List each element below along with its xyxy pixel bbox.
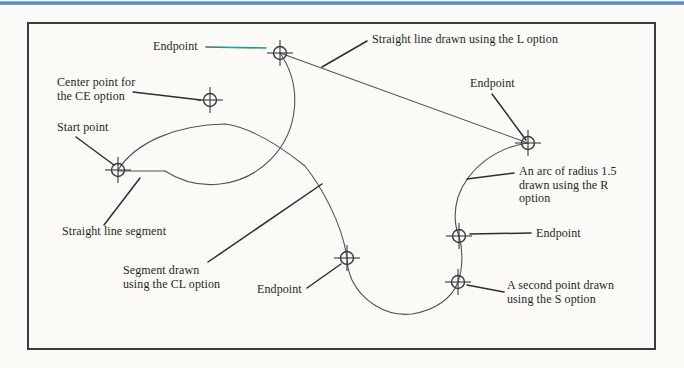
marker-ce-center-point <box>197 87 223 113</box>
leader-r-option <box>467 173 514 179</box>
marker-endpoint-right <box>515 130 541 156</box>
leader-cl-option <box>208 184 322 262</box>
label-ce-center: Center point forthe CE option <box>57 76 135 103</box>
label-endpoint-upper-right-line: Endpoint <box>470 77 515 91</box>
s-option-arc-lower-path <box>347 258 458 314</box>
label-s-option-line: using the S option <box>507 293 614 307</box>
label-cl-option-line: using the CL option <box>123 278 220 292</box>
leader-ce-center <box>133 92 201 100</box>
label-r-option-line: option <box>519 192 617 206</box>
leader-endpoint-top <box>206 47 266 48</box>
leader-endpoint-bottom <box>307 264 341 288</box>
leader-endpoint-upper-right <box>492 94 526 140</box>
leader-s-option <box>467 285 504 292</box>
leader-l-option <box>322 41 367 67</box>
leader-start-point <box>76 137 114 165</box>
label-endpoint-bottom-line: Endpoint <box>257 283 302 297</box>
leader-straight-line-segment <box>104 178 140 225</box>
label-s-option-line: A second point drawn <box>507 279 614 293</box>
label-l-option: Straight line drawn using the L option <box>372 33 558 47</box>
leader-endpoint-arc <box>470 233 531 234</box>
label-l-option-line: Straight line drawn using the L option <box>372 33 558 47</box>
label-r-option-line: drawn using the R <box>519 179 617 193</box>
marker-second-point <box>445 269 471 295</box>
marker-endpoint-arc-end <box>446 223 472 249</box>
marker-endpoint-top <box>267 40 293 66</box>
label-r-option-line: An arc of radius 1.5 <box>519 165 617 179</box>
label-cl-option: Segment drawnusing the CL option <box>123 264 220 291</box>
label-endpoint-top: Endpoint <box>153 40 198 54</box>
ce-option-arc-path <box>165 53 295 185</box>
label-straight-line-segment: Straight line segment <box>62 225 166 239</box>
label-ce-center-line: Center point for <box>57 76 135 90</box>
label-endpoint-arc-end-line: Endpoint <box>536 227 581 241</box>
label-endpoint-upper-right: Endpoint <box>470 77 515 91</box>
label-endpoint-bottom: Endpoint <box>257 283 302 297</box>
pline-diagram-figure: EndpointStraight line drawn using the L … <box>0 0 684 368</box>
label-start-point: Start point <box>57 121 108 135</box>
label-ce-center-line: the CE option <box>57 90 135 104</box>
label-start-point-line: Start point <box>57 121 108 135</box>
label-r-option: An arc of radius 1.5drawn using the Ropt… <box>519 165 617 206</box>
label-endpoint-top-line: Endpoint <box>153 40 198 54</box>
label-endpoint-arc-end: Endpoint <box>536 227 581 241</box>
page: EndpointStraight line drawn using the L … <box>0 0 684 368</box>
label-straight-line-segment-line: Straight line segment <box>62 225 166 239</box>
label-cl-option-line: Segment drawn <box>123 264 220 278</box>
label-s-option: A second point drawnusing the S option <box>507 279 614 306</box>
r-option-arc-path <box>455 143 528 236</box>
l-option-line-path <box>280 53 528 143</box>
